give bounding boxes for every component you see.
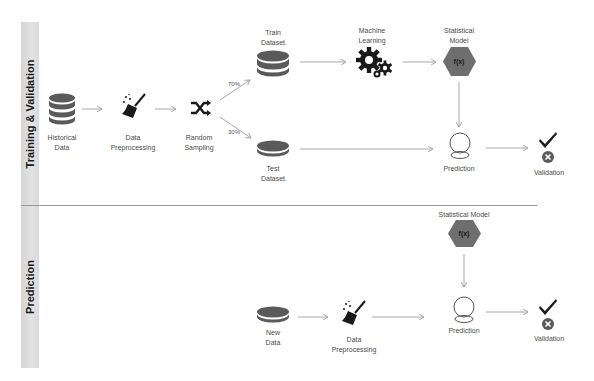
statistical-model-text: Statistical Model [444, 27, 474, 44]
preprocessing-label: Data Preprocessing [111, 133, 156, 153]
new-data-database-icon [256, 306, 290, 323]
crystal-ball-icon-2 [450, 296, 478, 324]
model-symbol-2: f(x) [459, 229, 470, 239]
broom-icon [120, 93, 148, 119]
new-data-label: New Data [266, 328, 281, 348]
shuffle-icon [190, 100, 212, 116]
model-symbol: f(x) [454, 57, 465, 67]
split-test-percent: 30% [228, 129, 240, 135]
train-database-icon [256, 50, 290, 77]
prediction-label: Prediction [443, 164, 474, 174]
statistical-model-label: Statistical Model [444, 26, 474, 46]
train-dataset-label: Train Dataset [261, 28, 285, 48]
train-dataset-text: Train Dataset [261, 29, 285, 46]
random-sampling-text: Random Sampling [184, 134, 213, 151]
check-icon [539, 132, 557, 148]
crystal-ball-icon [446, 132, 474, 160]
broom-icon-2 [340, 300, 368, 326]
test-dataset-text: Test Dataset [261, 165, 285, 182]
preprocessing-text: Data Preprocessing [111, 134, 156, 151]
test-dataset-label: Test Dataset [261, 164, 285, 184]
prediction-label-2: Prediction [448, 326, 479, 336]
machine-learning-text: Machine Learning [358, 27, 385, 44]
test-database-icon [256, 140, 290, 157]
statistical-model-label-2: Statistical Model [439, 210, 490, 220]
validation-icon-2 [538, 297, 558, 331]
new-data-text: New Data [266, 329, 281, 346]
random-sampling-label: Random Sampling [184, 133, 213, 153]
validation-icon [538, 130, 558, 164]
validation-label: Validation [534, 168, 564, 178]
split-train-percent: 70% [228, 81, 240, 87]
historical-data-text: Historical Data [48, 134, 77, 151]
machine-learning-label: Machine Learning [358, 26, 385, 46]
preprocessing-text-2: Data Preprocessing [332, 336, 377, 353]
check-icon-2 [539, 299, 557, 315]
database-icon [48, 93, 76, 125]
preprocessing-label-2: Data Preprocessing [332, 335, 377, 355]
connectors [0, 0, 594, 381]
historical-data-label: Historical Data [48, 133, 77, 153]
gears-icon [356, 46, 396, 80]
validation-label-2: Validation [534, 334, 564, 344]
